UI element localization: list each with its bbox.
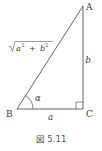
hyp-b-exp: 2 — [45, 42, 48, 48]
hyp-a-exp: 2 — [22, 42, 25, 48]
vertex-label-a: A — [85, 2, 93, 12]
side-label-a: a — [48, 112, 53, 122]
angle-arc-b — [26, 96, 33, 110]
vertex-label-c: C — [86, 109, 93, 119]
hyp-plus: + — [29, 44, 36, 53]
angle-label-alpha: α — [35, 93, 41, 103]
figure-caption: 図 5.11 — [36, 134, 67, 144]
hyp-a-base: a — [16, 44, 21, 53]
side-label-b: b — [86, 55, 91, 65]
hypotenuse-label: a 2 + b 2 — [9, 42, 53, 54]
vertex-label-b: B — [6, 109, 13, 119]
right-angle-marker — [76, 102, 83, 109]
right-triangle-figure: A B C b a α a 2 + b 2 図 5.11 — [0, 0, 102, 151]
side-ab-hypotenuse — [17, 6, 83, 109]
